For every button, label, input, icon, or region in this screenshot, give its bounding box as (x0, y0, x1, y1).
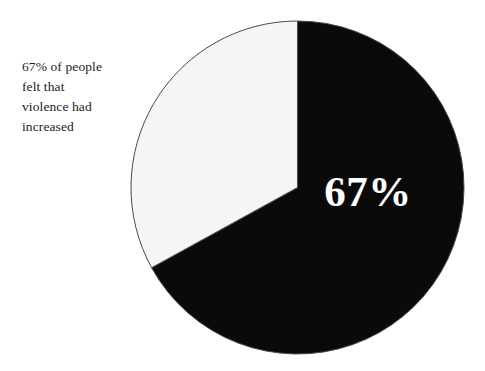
pie-chart (130, 20, 465, 355)
pie-svg (130, 20, 465, 355)
pie-chart-figure: 67% of people felt that violence had inc… (0, 0, 485, 371)
pie-slice-group (131, 21, 464, 354)
